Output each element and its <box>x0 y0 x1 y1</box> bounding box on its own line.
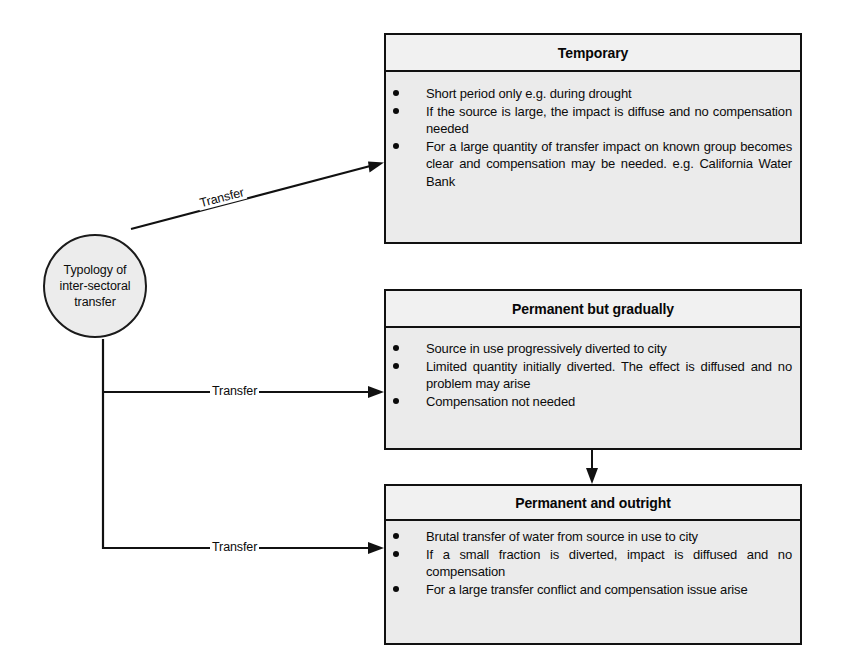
bullet-dot-icon <box>393 551 399 557</box>
bullet-item: Limited quantity initially diverted. The… <box>426 358 792 393</box>
edge-gradually-to-outright <box>586 449 598 484</box>
bullet-text: If the source is large, the impact is di… <box>426 103 792 138</box>
box-temporary[interactable]: Temporary Short period only e.g. during … <box>384 33 802 244</box>
bullet-text: Short period only e.g. during drought <box>426 85 792 103</box>
bullet-dot-icon <box>393 398 399 404</box>
root-node-circle[interactable]: Typology of inter-sectoral transfer <box>43 234 147 338</box>
bullet-item: Brutal transfer of water from source in … <box>426 528 792 546</box>
bullet-item: Compensation not needed <box>426 393 792 411</box>
bullet-dot-icon <box>393 108 399 114</box>
bullet-dot-icon <box>393 586 399 592</box>
bullet-dot-icon <box>393 533 399 539</box>
box-permanent-but-gradually[interactable]: Permanent but gradually Source in use pr… <box>384 289 802 450</box>
box-permanent-but-gradually-title: Permanent but gradually <box>386 291 800 328</box>
bullet-dot-icon <box>393 143 399 149</box>
box-permanent-but-gradually-body: Source in use progressively diverted to … <box>386 328 800 448</box>
bullet-item: If a small fraction is diverted, impact … <box>426 546 792 581</box>
bullet-dot-icon <box>393 363 399 369</box>
root-node-label: Typology of inter-sectoral transfer <box>56 262 135 310</box>
bullet-text: Source in use progressively diverted to … <box>426 340 792 358</box>
bullet-item: If the source is large, the impact is di… <box>426 103 792 138</box>
bullet-item: For a large transfer conflict and compen… <box>426 581 792 599</box>
bullet-item: For a large quantity of transfer impact … <box>426 138 792 191</box>
edge-label-transfer-gradually: Transfer <box>210 384 259 398</box>
diagram-canvas: Typology of inter-sectoral transfer Tran… <box>0 0 844 666</box>
bullet-item: Short period only e.g. during drought <box>426 85 792 103</box>
bullet-text: Limited quantity initially diverted. The… <box>426 358 792 393</box>
bullet-item: Source in use progressively diverted to … <box>426 340 792 358</box>
bullet-text: For a large transfer conflict and compen… <box>426 581 792 599</box>
bullet-dot-icon <box>393 345 399 351</box>
bullet-text: Compensation not needed <box>426 393 792 411</box>
box-permanent-and-outright-title: Permanent and outright <box>386 486 800 521</box>
edge-label-transfer-outright: Transfer <box>210 540 259 554</box>
bullet-text: For a large quantity of transfer impact … <box>426 138 792 191</box>
box-permanent-and-outright-body: Brutal transfer of water from source in … <box>386 521 800 643</box>
box-permanent-and-outright[interactable]: Permanent and outright Brutal transfer o… <box>384 484 802 645</box>
edge-to-temporary <box>131 162 384 230</box>
bullet-text: If a small fraction is diverted, impact … <box>426 546 792 581</box>
box-temporary-body: Short period only e.g. during drought If… <box>386 72 800 242</box>
bullet-dot-icon <box>393 90 399 96</box>
bullet-text: Brutal transfer of water from source in … <box>426 528 792 546</box>
box-temporary-title: Temporary <box>386 35 800 72</box>
